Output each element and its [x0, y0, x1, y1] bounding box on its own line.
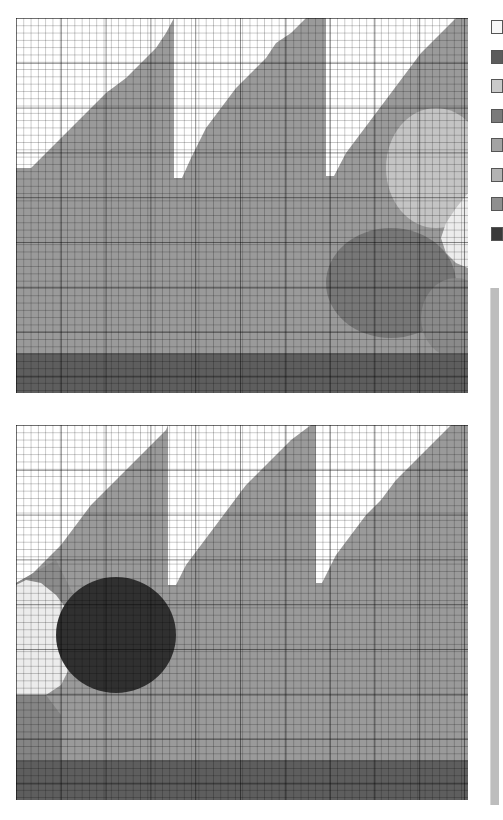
grid-regions-top — [16, 18, 468, 393]
legend-swatch-2 — [491, 79, 503, 93]
legend-swatch-7 — [491, 227, 503, 241]
vertical-scrollbar[interactable] — [490, 288, 499, 805]
legend-swatch-5 — [491, 168, 503, 182]
legend-swatch-3 — [491, 109, 503, 123]
color-legend — [491, 20, 501, 256]
simulation-grid-bottom — [16, 425, 468, 800]
region-floor — [16, 760, 468, 800]
legend-swatch-4 — [491, 138, 503, 152]
simulation-grid-top — [16, 18, 468, 393]
region-floor — [16, 353, 468, 393]
grid-regions-bottom — [16, 425, 468, 800]
legend-swatch-6 — [491, 197, 503, 211]
region-dark-blob — [56, 577, 176, 693]
legend-swatch-1 — [491, 50, 503, 64]
legend-swatch-0 — [491, 20, 503, 34]
